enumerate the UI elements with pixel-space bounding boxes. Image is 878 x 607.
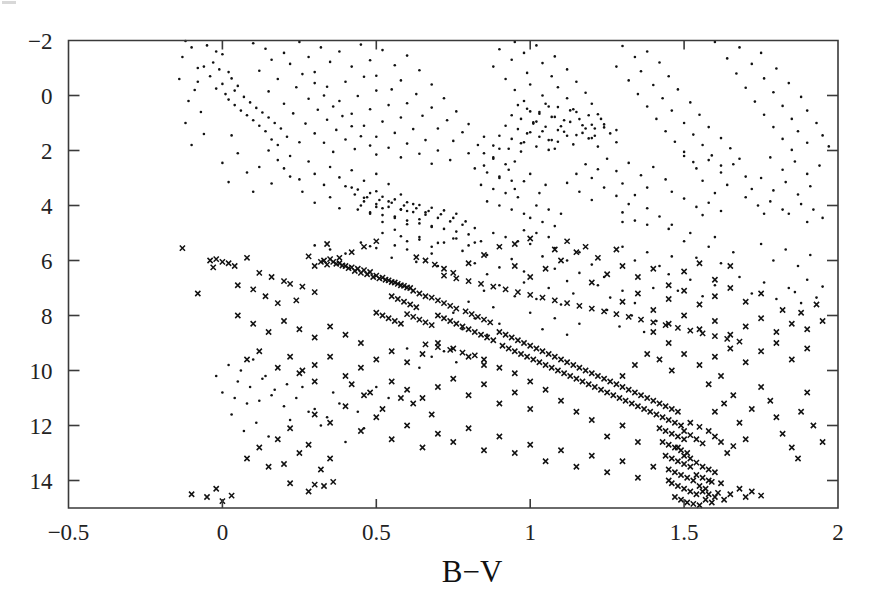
data-point-dot [707,246,710,249]
data-point-dot [615,129,618,132]
data-point-dot [350,169,353,172]
data-point-dot [828,145,831,148]
data-point-dot [264,375,267,378]
data-point-dot [584,127,587,130]
data-point-dot [301,386,304,389]
data-point-dot [424,211,427,214]
data-point-dot [246,114,249,117]
data-point-dot [387,104,390,107]
data-point-dot [554,317,557,320]
data-point-dot [498,48,501,51]
data-point-dot [800,203,803,206]
data-point-dot [381,49,384,52]
data-point-dot [547,208,550,211]
data-point-dot [258,400,261,403]
data-point-dot [375,89,378,92]
data-point-dot [646,207,649,210]
data-point-dot [541,255,544,258]
data-point-dot [667,75,670,78]
data-point-dot [483,136,486,139]
data-point-dot [627,162,630,165]
data-point-dot [818,164,821,167]
data-point-dot [230,77,233,80]
data-point-dot [357,208,360,211]
data-point-dot [578,323,581,326]
data-point-dot [504,236,507,239]
data-point-dot [430,106,433,109]
data-point-dot [437,149,440,152]
data-point-dot [535,232,538,235]
data-point-dot [535,204,538,207]
data-point-dot [652,84,655,87]
data-point-dot [541,62,544,65]
data-point-dot [578,272,581,275]
data-point-dot [529,131,532,134]
data-point-dot [557,140,560,143]
data-point-dot [406,248,409,251]
data-point-dot [720,210,723,213]
data-point-dot [557,86,560,89]
data-point-dot [267,435,270,438]
data-point-dot [772,259,775,262]
data-point-dot [406,240,409,243]
data-point-dot [806,279,809,282]
data-point-dot [557,129,560,132]
data-point-dot [307,98,310,101]
data-point-dot [523,270,526,273]
data-point-dot [375,153,378,156]
data-point-dot [498,175,501,178]
data-point-dot [784,248,787,251]
data-point-dot [806,109,809,112]
data-point-dot [720,171,723,174]
data-point-dot [249,101,252,104]
data-point-dot [381,195,384,198]
data-point-dot [335,129,338,132]
data-point-dot [289,175,292,178]
data-point-dot [507,148,510,151]
data-point-dot [514,188,517,191]
data-point-dot [215,375,218,378]
data-point-dot [544,103,547,106]
data-point-dot [375,247,378,250]
data-point-dot [535,120,538,123]
data-point-dot [594,127,597,130]
data-point-dot [634,56,637,59]
data-point-dot [637,93,640,96]
data-point-dot [547,287,550,290]
data-point-dot [286,383,289,386]
data-point-dot [634,302,637,305]
data-point-dot [591,199,594,202]
data-point-dot [363,197,366,200]
data-point-dot [821,285,824,288]
data-point-dot [744,175,747,178]
data-point-dot [270,59,273,62]
data-point-dot [621,182,624,185]
data-point-dot [738,46,741,49]
data-point-dot [591,177,594,180]
data-point-dot [597,113,600,116]
data-point-dot [514,295,517,298]
data-point-dot [526,132,529,135]
data-point-dot [550,75,553,78]
data-point-dot [674,140,677,143]
data-point-dot [575,173,578,176]
data-point-dot [390,88,393,91]
data-point-dot [270,138,273,141]
data-point-dot [529,243,532,246]
data-point-dot [695,167,698,170]
data-point-dot [769,200,772,203]
data-point-dot [313,71,316,74]
data-point-dot [566,259,569,262]
data-point-dot [289,419,292,422]
data-point-dot [406,102,409,105]
data-point-dot [190,144,193,147]
data-point-dot [781,208,784,211]
data-point-dot [781,168,784,171]
data-point-dot [329,166,332,169]
data-point-dot [821,134,824,137]
data-point-dot [683,240,686,243]
data-point-dot [578,251,581,254]
data-point-dot [461,131,464,134]
data-point-dot [289,63,292,66]
data-point-dot [375,386,378,389]
